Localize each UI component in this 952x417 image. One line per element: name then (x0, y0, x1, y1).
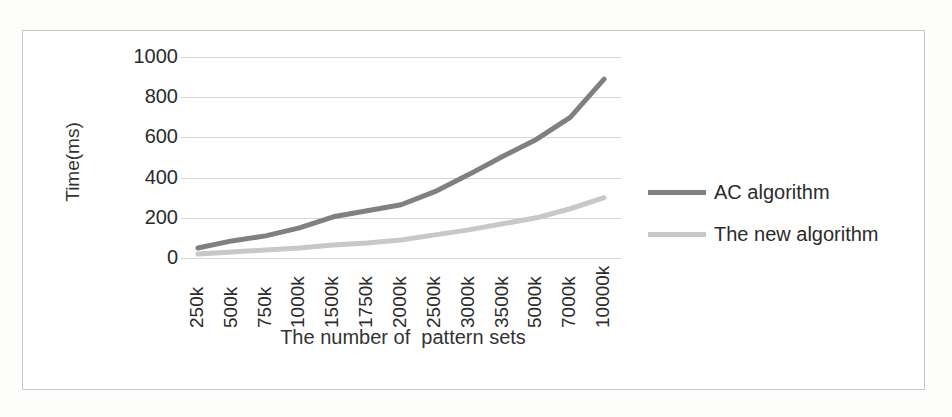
y-axis-tick-label: 200 (108, 207, 178, 227)
chart-frame: Time(ms) 10008006004002000 250k500k750k1… (22, 30, 925, 390)
chart-page: Time(ms) 10008006004002000 250k500k750k1… (0, 0, 952, 417)
series-line (198, 79, 604, 248)
y-axis-tick-label: 0 (108, 247, 178, 267)
x-axis-tick-label: 750k (255, 238, 274, 328)
x-axis-tick-label: 2000k (390, 238, 409, 328)
x-axis-tick-label: 3500k (492, 238, 511, 328)
legend-color-swatch (648, 232, 706, 237)
y-axis-tick-labels: 10008006004002000 (103, 57, 178, 237)
legend-label: The new algorithm (714, 223, 879, 246)
legend-label: AC algorithm (714, 181, 830, 204)
plot-lines (181, 57, 621, 258)
x-axis-tick-label: 500k (221, 238, 240, 328)
x-axis-tick-labels: 250k500k750k1000k1500k1750k2000k2500k300… (181, 238, 621, 328)
x-axis-tick-label: 7000k (559, 238, 578, 328)
y-axis-title: Time(ms) (62, 92, 84, 232)
chart-legend: AC algorithmThe new algorithm (648, 171, 918, 255)
x-axis-tick-label: 3000k (458, 238, 477, 328)
x-axis-tick-label: 2500k (424, 238, 443, 328)
x-axis-tick-label: 1000k (288, 238, 307, 328)
y-axis-tick-label: 800 (108, 86, 178, 106)
x-axis-tick-label: 250k (187, 238, 206, 328)
plot-area (181, 57, 621, 258)
y-axis-tick-label: 400 (108, 167, 178, 187)
y-axis-tick-label: 1000 (108, 46, 178, 66)
legend-item[interactable]: AC algorithm (648, 171, 918, 213)
x-axis-tick-label: 1750k (356, 238, 375, 328)
y-axis-tick-label: 600 (108, 126, 178, 146)
x-axis-tick-label: 1500k (322, 238, 341, 328)
x-axis-tick-label: 10000k (593, 238, 612, 328)
legend-item[interactable]: The new algorithm (648, 213, 918, 255)
x-axis-tick-label: 5000k (525, 238, 544, 328)
x-axis-title: The number of pattern sets (173, 326, 633, 349)
legend-color-swatch (648, 190, 706, 195)
